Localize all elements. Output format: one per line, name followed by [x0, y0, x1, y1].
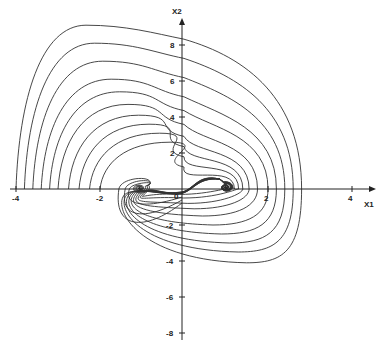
phase-portrait-chart: -4-2248642-2-4-6-8 X1 X2 0: [0, 0, 384, 342]
trajectory-curve: [100, 142, 234, 196]
x-axis-label: X1: [364, 200, 374, 209]
trajectories: [16, 25, 302, 263]
y-axis-label: X2: [172, 7, 182, 16]
origin-label: 0: [174, 192, 179, 201]
x-tick-label: 2: [264, 194, 269, 203]
y-tick-label: -8: [166, 329, 174, 338]
x-tick-label: -2: [96, 194, 104, 203]
y-axis-arrow-icon: [179, 18, 185, 25]
y-tick-label: -6: [166, 293, 174, 302]
x-axis-arrow-icon: [369, 186, 376, 192]
y-tick-label: -2: [166, 221, 174, 230]
x-tick-label: -4: [12, 194, 20, 203]
y-tick-label: 8: [170, 41, 175, 50]
y-tick-label: -4: [166, 257, 174, 266]
y-tick-label: 2: [170, 149, 175, 158]
x-tick-label: 4: [348, 194, 353, 203]
y-tick-label: 4: [170, 113, 175, 122]
trajectory-curve: [58, 104, 258, 216]
y-tick-label: 6: [170, 77, 175, 86]
